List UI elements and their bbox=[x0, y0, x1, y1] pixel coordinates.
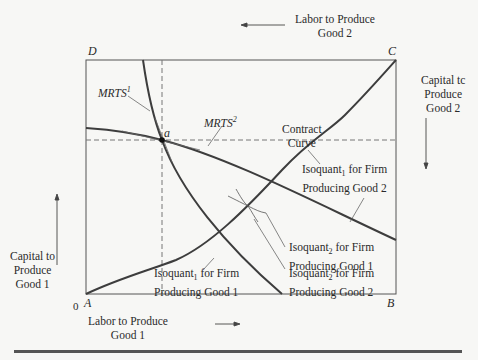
right-axis-line3: Good 2 bbox=[421, 101, 465, 115]
mrts1-base: MRTS bbox=[98, 87, 127, 99]
iso2-good1-base: Isoquant bbox=[289, 241, 329, 253]
iso2-good2-rest: for Firm bbox=[333, 267, 375, 279]
right-axis-label: Capital tc Produce Good 2 bbox=[421, 73, 465, 115]
iso1-good2-rest: for Firm bbox=[346, 163, 388, 175]
top-axis-label: Labor to Produce Good 2 bbox=[295, 12, 375, 40]
isoquant1-good1-label: Isoquant1 for Firm Producing Good 1 bbox=[154, 266, 239, 299]
left-axis-line1: Capital to bbox=[10, 249, 55, 263]
right-axis-line2: Produce bbox=[421, 87, 465, 101]
iso1-good1-rest: for Firm bbox=[198, 267, 240, 279]
corner-label-b: B bbox=[387, 296, 394, 311]
bottom-axis-label: Labor to Produce Good 1 bbox=[88, 314, 168, 342]
iso2-good1-rest: for Firm bbox=[333, 241, 375, 253]
mrts2-sup: 2 bbox=[233, 115, 237, 124]
corner-label-d: D bbox=[88, 44, 97, 59]
isoquant2-good2-curve bbox=[236, 189, 258, 222]
contract-curve-label: Contract Curve bbox=[282, 122, 322, 150]
isoquant1-good2-label: Isoquant1 for Firm Producing Good 2 bbox=[302, 162, 387, 195]
iso2-good2-base: Isoquant bbox=[289, 267, 329, 279]
bottom-axis-line2: Good 1 bbox=[88, 328, 168, 342]
left-axis-line2: Produce bbox=[10, 263, 55, 277]
origin-label: 0 bbox=[73, 300, 79, 312]
mrts1-label: MRTS1 bbox=[98, 83, 131, 100]
corner-label-a: A bbox=[84, 296, 91, 311]
isoquant2-good2-label: Isoquant2 for Firm Producing Good 2 bbox=[289, 266, 374, 299]
iso1-good2-line2: Producing Good 2 bbox=[302, 181, 387, 195]
contract-curve-line2: Curve bbox=[282, 136, 322, 150]
corner-label-c: C bbox=[388, 44, 396, 59]
edgeworth-box-diagram bbox=[0, 0, 478, 360]
mrts1-sup: 1 bbox=[127, 85, 131, 94]
bottom-axis-line1: Labor to Produce bbox=[88, 314, 168, 328]
point-a-label: a bbox=[164, 126, 170, 141]
iso1-good2-base: Isoquant bbox=[302, 163, 342, 175]
mrts2-label: MRTS2 bbox=[204, 113, 237, 130]
left-axis-line3: Good 1 bbox=[10, 277, 55, 291]
iso2-good2-line2: Producing Good 2 bbox=[289, 285, 374, 299]
top-axis-line1: Labor to Produce bbox=[295, 12, 375, 26]
left-axis-label: Capital to Produce Good 1 bbox=[10, 249, 55, 291]
right-axis-line1: Capital tc bbox=[421, 73, 465, 87]
bottom-rule-divider bbox=[14, 350, 462, 353]
iso1-good1-line2: Producing Good 1 bbox=[154, 285, 239, 299]
top-axis-line2: Good 2 bbox=[295, 26, 375, 40]
mrts2-base: MRTS bbox=[204, 117, 233, 129]
isoquant2-good1-curve bbox=[228, 196, 266, 213]
iso1-good1-base: Isoquant bbox=[154, 267, 194, 279]
contract-curve-line1: Contract bbox=[282, 122, 322, 136]
